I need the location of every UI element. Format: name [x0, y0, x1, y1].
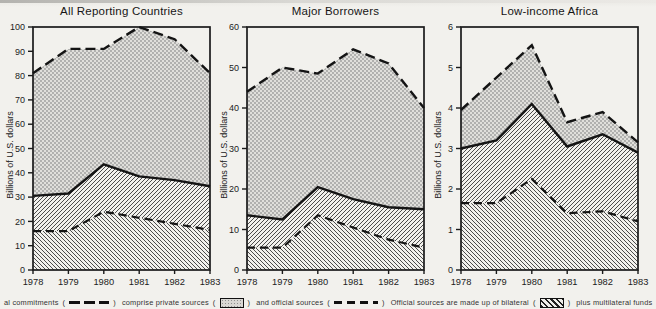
y-tick-label: 60: [229, 22, 239, 32]
y-tick-label: 40: [229, 103, 239, 113]
bilateral-hatch-swatch: [540, 298, 564, 308]
y-tick-label: 10: [15, 241, 25, 251]
x-tick-label: 1981: [557, 277, 578, 287]
y-tick-label: 50: [229, 63, 239, 73]
legend-text-private-sources: comprise private sources: [122, 298, 209, 307]
y-tick-label: 40: [15, 168, 25, 178]
y-tick-label: 30: [229, 144, 239, 154]
x-tick-label: 1981: [343, 277, 364, 287]
y-tick-label: 5: [448, 63, 453, 73]
legend-text-multilateral-funds: plus multilateral funds: [576, 298, 652, 307]
y-tick-label: 10: [229, 225, 239, 235]
x-tick-label: 1980: [307, 277, 328, 287]
y-tick-label: 80: [15, 71, 25, 81]
chart-2: 0123456197819791980198119821983: [448, 22, 648, 287]
y-tick-label: 4: [448, 103, 453, 113]
y-tick-label: 6: [448, 22, 453, 32]
x-tick-label: 1980: [521, 277, 542, 287]
x-tick-label: 1983: [414, 277, 435, 287]
y-tick-label: 1: [448, 225, 453, 235]
x-tick-label: 1978: [23, 277, 44, 287]
y-tick-label: 90: [15, 47, 25, 57]
x-tick-label: 1979: [272, 277, 293, 287]
figure-legend: al commitments ( ) comprise private sour…: [0, 296, 656, 309]
y-tick-label: 20: [229, 184, 239, 194]
x-tick-label: 1979: [58, 277, 79, 287]
y-tick-label: 70: [15, 95, 25, 105]
y-axis-label-2: Billions of U.S. dollars: [219, 85, 229, 225]
x-tick-label: 1983: [200, 277, 221, 287]
official-sources-line-symbol: [334, 301, 378, 304]
y-tick-label: 50: [15, 144, 25, 154]
x-tick-label: 1982: [378, 277, 399, 287]
chart-title-low-income-africa: Low-income Africa: [461, 5, 638, 17]
y-tick-label: 0: [448, 265, 453, 275]
chart-title-major-borrowers: Major Borrowers: [247, 5, 424, 17]
y-tick-label: 30: [15, 192, 25, 202]
chart-1: 0102030405060197819791980198119821983: [229, 22, 434, 287]
total-commitments-line-symbol: [69, 301, 109, 304]
legend-text-total-commitments: al commitments: [4, 298, 59, 307]
legend-text-official-sources: and official sources: [256, 298, 323, 307]
charts-canvas: 0102030405060708090100197819791980198119…: [0, 0, 656, 295]
x-tick-label: 1978: [237, 277, 258, 287]
legend-text-bilateral: Official sources are made up of bilatera…: [391, 298, 529, 307]
x-tick-label: 1978: [451, 277, 472, 287]
y-tick-label: 20: [15, 217, 25, 227]
chart-title-all-reporting-countries: All Reporting Countries: [33, 5, 210, 17]
y-tick-label: 3: [448, 144, 453, 154]
x-tick-label: 1981: [129, 277, 150, 287]
y-tick-label: 0: [20, 265, 25, 275]
figure-scan: 0102030405060708090100197819791980198119…: [0, 0, 656, 309]
y-tick-label: 2: [448, 184, 453, 194]
x-tick-label: 1983: [628, 277, 649, 287]
x-tick-label: 1980: [93, 277, 114, 287]
x-tick-label: 1979: [486, 277, 507, 287]
y-tick-label: 0: [234, 265, 239, 275]
private-sources-swatch: [220, 298, 244, 308]
y-tick-label: 100: [10, 22, 25, 32]
x-tick-label: 1982: [592, 277, 613, 287]
chart-0: 0102030405060708090100197819791980198119…: [10, 22, 220, 287]
y-axis-label-3: Billions of U.S. dollars: [433, 85, 443, 225]
y-axis-label-1: Billions of U.S. dollars: [5, 85, 15, 225]
y-tick-label: 60: [15, 119, 25, 129]
x-tick-label: 1982: [164, 277, 185, 287]
